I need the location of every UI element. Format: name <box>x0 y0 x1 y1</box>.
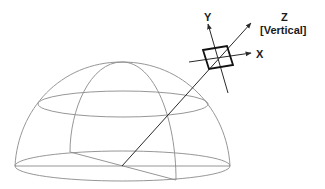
dome-outline <box>15 62 230 166</box>
z-axis-label: Z <box>281 11 288 23</box>
z-axis-note: [Vertical] <box>260 24 307 36</box>
upper-latitude-ring <box>38 91 208 117</box>
y-axis-label: Y <box>204 11 212 23</box>
x-axis-label: X <box>256 48 264 60</box>
hemisphere-axes-diagram: Y Z [Vertical] X <box>0 0 325 189</box>
meridian-arc <box>70 62 176 180</box>
x-axis-arrow <box>189 53 251 62</box>
z-axis-arrow <box>122 23 251 166</box>
hemisphere-wireframe <box>15 62 230 181</box>
